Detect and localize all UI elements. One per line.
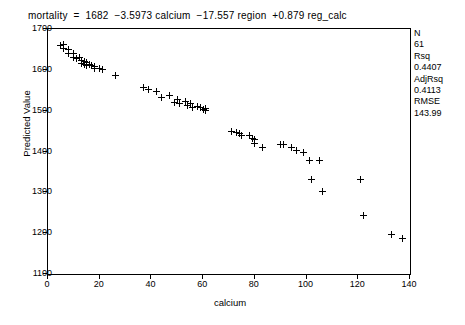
y-tick-mark	[43, 28, 47, 29]
y-tick-mark	[43, 232, 47, 233]
x-tick-label: 140	[389, 279, 429, 289]
stat-rmse-value: 143.99	[414, 108, 464, 119]
data-point	[166, 92, 173, 99]
data-point	[319, 188, 326, 195]
x-tick-label: 80	[234, 279, 274, 289]
x-tick-mark	[47, 275, 48, 279]
data-point	[251, 140, 258, 147]
data-point	[202, 107, 209, 114]
scatter-points-layer	[48, 29, 410, 274]
y-tick-mark	[43, 273, 47, 274]
x-tick-label: 0	[27, 279, 67, 289]
data-point	[158, 94, 165, 101]
data-point	[293, 147, 300, 154]
data-point	[99, 66, 106, 73]
data-point	[399, 235, 406, 242]
data-point	[300, 149, 307, 156]
y-tick-mark	[43, 151, 47, 152]
data-point	[388, 231, 395, 238]
data-point	[357, 176, 364, 183]
data-point	[308, 176, 315, 183]
x-tick-mark	[202, 275, 203, 279]
data-point	[238, 132, 245, 139]
data-point	[360, 212, 367, 219]
y-tick-mark	[43, 69, 47, 70]
data-point	[280, 141, 287, 148]
stat-rsq-value: 0.4407	[414, 62, 464, 73]
data-point	[112, 72, 119, 79]
x-tick-mark	[150, 275, 151, 279]
y-tick-mark	[43, 110, 47, 111]
plot-area	[47, 28, 411, 275]
x-tick-label: 20	[79, 279, 119, 289]
x-tick-mark	[357, 275, 358, 279]
x-tick-mark	[254, 275, 255, 279]
data-point	[316, 157, 323, 164]
data-point	[145, 86, 152, 93]
x-tick-label: 100	[286, 279, 326, 289]
stat-n-label: N	[414, 28, 464, 39]
stat-rsq-label: Rsq	[414, 51, 464, 62]
x-tick-label: 60	[182, 279, 222, 289]
x-axis-label: calcium	[160, 297, 300, 308]
x-tick-mark	[99, 275, 100, 279]
x-tick-label: 120	[337, 279, 377, 289]
stat-rmse-label: RMSE	[414, 96, 464, 107]
stat-adjrsq-label: AdjRsq	[414, 74, 464, 85]
y-tick-mark	[43, 191, 47, 192]
data-point	[306, 157, 313, 164]
x-tick-label: 40	[130, 279, 170, 289]
y-axis-label: Predicted Value	[21, 54, 32, 194]
x-tick-mark	[409, 275, 410, 279]
data-point	[259, 144, 266, 151]
regression-equation: mortality = 1682 −3.5973 calcium −17.557…	[28, 10, 347, 21]
chart-root: mortality = 1682 −3.5973 calcium −17.557…	[0, 0, 465, 325]
x-tick-mark	[306, 275, 307, 279]
stat-n-value: 61	[414, 39, 464, 50]
stats-panel: N 61 Rsq 0.4407 AdjRsq 0.4113 RMSE 143.9…	[414, 28, 464, 119]
stat-adjrsq-value: 0.4113	[414, 85, 464, 96]
